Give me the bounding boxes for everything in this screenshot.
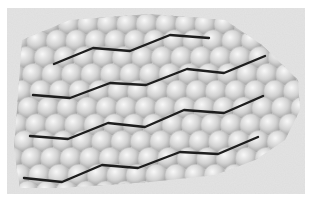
sphere: [239, 198, 261, 201]
sphere: [122, 198, 144, 201]
sphere: [219, 198, 241, 201]
sphere: [180, 198, 202, 201]
sphere: [258, 198, 280, 201]
sphere: [310, 97, 313, 119]
sphere: [306, 131, 313, 153]
diagram-canvas: [0, 0, 313, 201]
sphere: [5, 198, 27, 201]
sphere: [278, 198, 300, 201]
sphere: [297, 198, 313, 201]
sphere: [200, 198, 222, 201]
sphere: [0, 198, 7, 201]
sphere: [63, 198, 85, 201]
packed-spheres-diagram: [0, 0, 313, 201]
sphere: [307, 47, 313, 69]
sphere: [102, 198, 124, 201]
sphere: [312, 13, 314, 35]
sphere: [0, 147, 4, 169]
sphere: [24, 198, 46, 201]
sphere: [141, 198, 163, 201]
sphere: [83, 198, 105, 201]
sphere: [304, 0, 313, 18]
sphere: [44, 198, 66, 201]
sphere: [161, 198, 183, 201]
